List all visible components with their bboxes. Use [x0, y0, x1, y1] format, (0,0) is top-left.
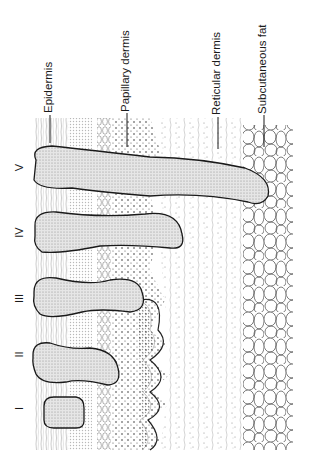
- label-epidermis: Epidermis: [43, 62, 55, 113]
- numeral-ii: II: [14, 345, 25, 365]
- label-papillary-dermis: Papillary dermis: [120, 30, 132, 112]
- numeral-i: I: [14, 399, 25, 419]
- numeral-iii: III: [14, 289, 25, 309]
- burn-depth-i: [44, 397, 84, 428]
- numeral-v: V: [14, 158, 25, 178]
- skin-burn-depth-diagram: Epidermis Papillary dermis Reticular der…: [0, 0, 313, 454]
- label-subcutaneous-fat: Subcutaneous fat: [257, 24, 269, 114]
- numeral-iv: IV: [14, 223, 25, 243]
- burn-depth-iii: [34, 278, 144, 317]
- label-reticular-dermis: Reticular dermis: [211, 32, 223, 115]
